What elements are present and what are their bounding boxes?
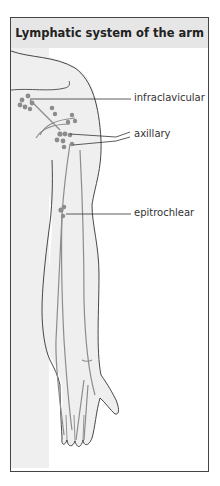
- label-epitrochlear: epitrochlear: [134, 207, 194, 218]
- label-infraclavicular: infraclavicular: [134, 92, 205, 103]
- arm-illustration: [0, 0, 220, 486]
- label-axillary: axillary: [134, 128, 171, 139]
